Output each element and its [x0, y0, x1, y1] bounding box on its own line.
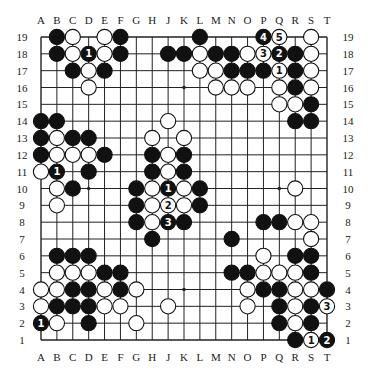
stone-white-A4	[33, 282, 48, 297]
row-label-right: 5	[345, 267, 351, 279]
column-label-bottom: Q	[275, 351, 283, 363]
move-number: 1	[276, 65, 283, 76]
row-label-left: 5	[19, 267, 25, 279]
move-number: 3	[165, 217, 172, 228]
row-label-left: 4	[19, 284, 25, 296]
stone-black-F19	[113, 29, 128, 44]
stone-black-A2: 1	[33, 316, 48, 331]
stone-white-K9	[176, 198, 191, 213]
stone-white-B2	[49, 316, 64, 331]
stone-black-Q4	[272, 282, 287, 297]
row-label-left: 13	[17, 132, 29, 144]
stone-black-S15	[304, 97, 319, 112]
stone-white-R15	[288, 97, 303, 112]
stone-black-E5	[97, 265, 112, 280]
column-label-bottom: N	[228, 351, 236, 363]
row-label-right: 16	[343, 82, 355, 94]
stone-white-T3: 3	[319, 299, 334, 314]
stone-white-B4	[49, 282, 64, 297]
stone-black-P19: 4	[256, 29, 271, 44]
row-label-left: 14	[17, 115, 29, 127]
stone-white-D5	[81, 265, 96, 280]
stone-white-R10	[288, 181, 303, 196]
stone-white-G4	[129, 282, 144, 297]
stone-white-G2	[129, 316, 144, 331]
column-label-top: N	[228, 14, 236, 26]
stone-white-S1: 1	[304, 332, 319, 347]
stone-white-J3	[161, 299, 176, 314]
row-label-right: 8	[345, 216, 351, 228]
stone-white-B10	[49, 181, 64, 196]
stone-white-C5	[65, 265, 80, 280]
row-label-left: 15	[17, 98, 29, 110]
stone-white-K10	[176, 181, 191, 196]
stone-white-D16	[81, 80, 96, 95]
column-label-top: C	[69, 14, 76, 26]
column-label-top: M	[211, 14, 221, 26]
column-label-top: B	[53, 14, 60, 26]
column-label-top: J	[166, 14, 171, 26]
stone-white-B9	[49, 198, 64, 213]
column-label-bottom: C	[69, 351, 76, 363]
stone-white-J12	[161, 147, 176, 162]
column-label-top: D	[85, 14, 93, 26]
stone-black-D18: 1	[81, 46, 96, 61]
column-label-bottom: F	[117, 351, 123, 363]
stone-white-J9: 2	[161, 198, 176, 213]
row-label-right: 19	[343, 31, 355, 43]
row-label-left: 18	[17, 48, 29, 60]
stone-black-G8	[129, 215, 144, 230]
stone-black-A12	[33, 147, 48, 162]
column-label-bottom: O	[244, 351, 252, 363]
stone-black-R1	[288, 332, 303, 347]
stone-black-S3	[304, 299, 319, 314]
row-label-left: 1	[19, 334, 25, 346]
stone-white-R3	[288, 299, 303, 314]
stone-black-C6	[65, 248, 80, 263]
stone-black-E17	[97, 63, 112, 78]
stone-black-N5	[224, 265, 239, 280]
stone-white-P18: 3	[256, 46, 271, 61]
stone-white-B13	[49, 130, 64, 145]
stone-white-R4	[288, 282, 303, 297]
stone-black-F18	[113, 46, 128, 61]
stone-black-C17	[65, 63, 80, 78]
stone-white-S18	[304, 46, 319, 61]
stone-white-S19	[304, 29, 319, 44]
stone-black-P17	[256, 63, 271, 78]
row-label-left: 6	[19, 250, 25, 262]
column-label-top: O	[244, 14, 252, 26]
stone-black-D2	[81, 316, 96, 331]
row-label-right: 9	[345, 199, 351, 211]
stone-white-P5	[256, 265, 271, 280]
stone-white-L18	[192, 46, 207, 61]
stone-black-Q8	[272, 215, 287, 230]
row-label-left: 17	[17, 65, 29, 77]
stone-black-D13	[81, 130, 96, 145]
stone-white-J14	[161, 114, 176, 129]
stone-black-Q3	[272, 299, 287, 314]
stone-black-O17	[240, 63, 255, 78]
stone-black-T4	[319, 282, 334, 297]
move-number: 3	[324, 301, 331, 312]
stone-black-M18	[208, 46, 223, 61]
stone-white-D17	[81, 63, 96, 78]
stone-white-B5	[49, 265, 64, 280]
row-label-right: 12	[343, 149, 354, 161]
stone-black-J18	[161, 46, 176, 61]
stone-white-O3	[240, 299, 255, 314]
stone-white-Q15	[272, 97, 287, 112]
stone-white-E4	[97, 282, 112, 297]
stone-white-C19	[65, 29, 80, 44]
column-label-top: T	[324, 14, 331, 26]
stone-white-J11	[161, 164, 176, 179]
stone-white-S16	[304, 80, 319, 95]
stone-black-S2	[304, 316, 319, 331]
column-label-top: R	[292, 14, 300, 26]
column-label-bottom: S	[308, 351, 314, 363]
stone-white-R2	[288, 316, 303, 331]
stone-black-B11: 1	[49, 164, 64, 179]
stone-black-R16	[288, 80, 303, 95]
stone-white-C12	[65, 147, 80, 162]
row-label-right: 15	[343, 98, 355, 110]
